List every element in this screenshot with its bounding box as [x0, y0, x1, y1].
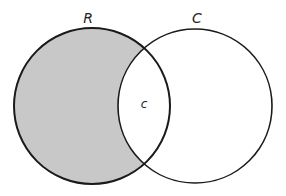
set-c-label: C	[192, 10, 202, 26]
venn-diagram: R C c	[0, 0, 286, 196]
set-r-label: R	[83, 10, 93, 26]
intersection-label: c	[141, 97, 148, 111]
